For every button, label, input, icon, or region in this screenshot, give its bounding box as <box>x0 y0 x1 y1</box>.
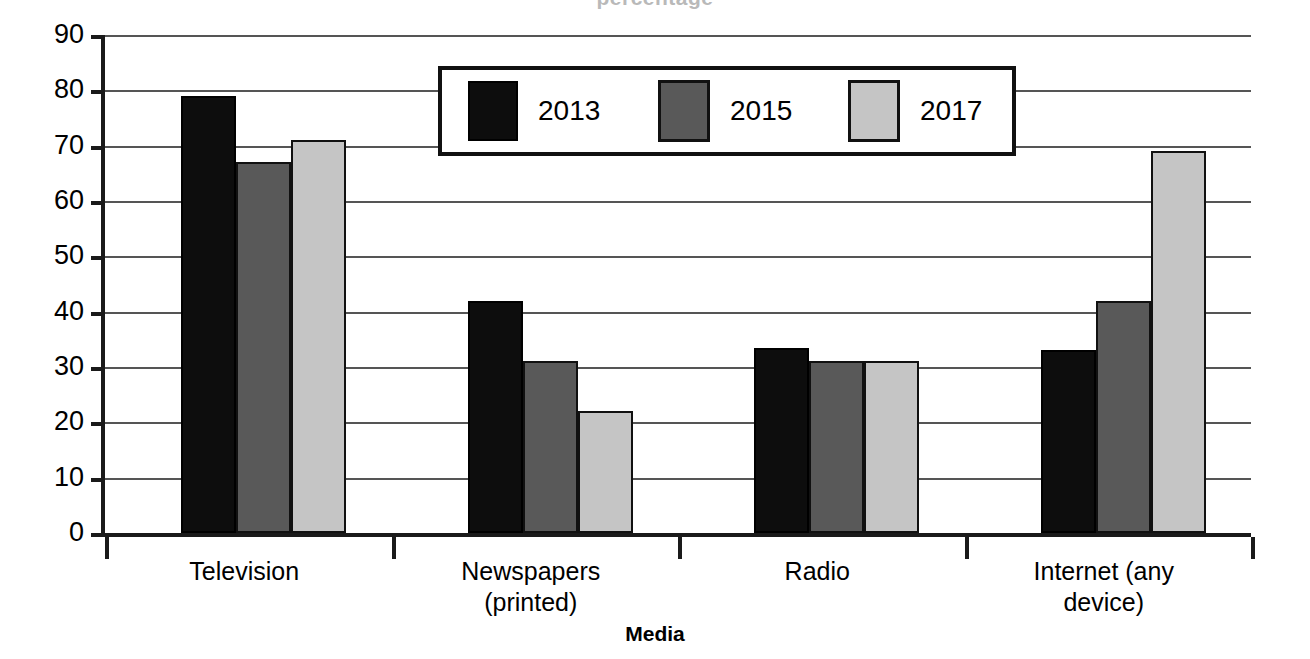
y-tick-label: 0 <box>69 519 84 546</box>
x-tick-label: Newspapers (printed) <box>388 556 675 618</box>
y-tick-label: 50 <box>54 242 84 269</box>
y-axis-tick <box>91 367 105 371</box>
y-axis-tick <box>91 90 105 94</box>
legend-swatch-icon <box>848 80 900 142</box>
bar-group <box>1041 35 1206 533</box>
y-tick-label: 10 <box>54 464 84 491</box>
y-axis-tick <box>91 312 105 316</box>
bar-chart: percentage Percentage of population 9080… <box>0 0 1310 659</box>
legend-item: 2015 <box>632 80 822 142</box>
y-axis-tick <box>91 35 105 39</box>
x-tick-label-row: TelevisionNewspapers (printed)RadioInter… <box>101 556 1247 626</box>
legend-label: 2013 <box>538 95 600 127</box>
legend-item: 2013 <box>442 81 632 141</box>
bar-group <box>181 35 346 533</box>
legend-label: 2017 <box>920 95 982 127</box>
legend-swatch-icon <box>468 81 518 141</box>
bar <box>1041 350 1096 533</box>
x-tick-label: Radio <box>674 556 961 587</box>
x-axis-title: Media <box>0 622 1310 646</box>
bar <box>291 140 346 533</box>
y-tick-label: 20 <box>54 408 84 435</box>
bar <box>809 361 864 533</box>
y-tick-label: 70 <box>54 132 84 159</box>
y-axis-tick <box>91 146 105 150</box>
bar <box>1096 301 1151 533</box>
y-tick-label: 40 <box>54 298 84 325</box>
chart-title-cropped: percentage <box>0 0 1310 10</box>
legend-item: 2017 <box>822 80 1012 142</box>
y-axis-tick <box>91 422 105 426</box>
y-tick-label: 80 <box>54 76 84 103</box>
bar <box>1151 151 1206 533</box>
bar <box>523 361 578 533</box>
y-tick-label: 60 <box>54 187 84 214</box>
bar <box>236 162 291 533</box>
bar <box>181 96 236 533</box>
bar <box>754 348 809 533</box>
legend-label: 2015 <box>730 95 792 127</box>
y-axis-tick <box>91 201 105 205</box>
chart-title-text: percentage <box>0 0 1310 8</box>
y-tick-label-column: 9080706050403020100 <box>0 35 84 533</box>
x-tick-label: Internet (any device) <box>961 556 1248 618</box>
y-tick-label: 30 <box>54 353 84 380</box>
y-tick-label: 90 <box>54 21 84 48</box>
chart-legend: 201320152017 <box>438 66 1016 156</box>
y-axis-tick <box>91 478 105 482</box>
bar <box>468 301 523 533</box>
x-tick-label: Television <box>101 556 388 587</box>
legend-swatch-icon <box>658 80 710 142</box>
y-axis-tick <box>91 256 105 260</box>
y-axis-tick <box>91 533 105 537</box>
bar <box>578 411 633 533</box>
bar <box>864 361 919 533</box>
x-axis-tick <box>1251 537 1255 559</box>
